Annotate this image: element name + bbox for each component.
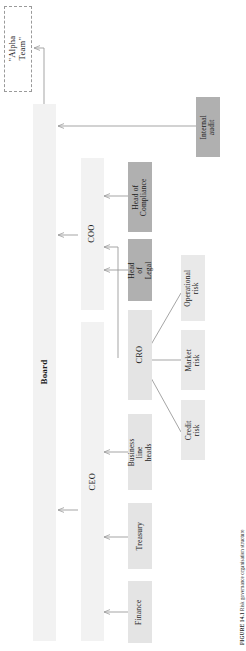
figure-caption-text: Risk governance organisation structure [239,529,245,610]
node-business-line-heads-label: Business line heads [128,438,153,466]
node-board-label: Board [39,360,49,385]
node-finance[interactable]: Finance [128,581,152,643]
node-board[interactable]: Board [33,104,56,641]
node-ceo-label: CEO [88,473,97,490]
node-coo-label: COO [88,225,97,243]
figure-caption-label: FIGURE 14.1 [239,612,245,645]
node-market-risk-label: Market risk [185,349,202,372]
edge-cro-coo [104,247,118,358]
node-head-of-compliance[interactable]: Head of Compliance [128,162,152,232]
node-cro-label: CRO [135,346,144,364]
node-internal-audit-label: Internal audit [200,115,217,140]
figure-caption: FIGURE 14.1 Risk governance organisation… [227,0,245,651]
node-ceo[interactable]: CEO [81,322,104,641]
node-cro[interactable]: CRO [128,310,152,400]
edge-board-alphateam [34,48,44,104]
node-alpha-team-label: "Alpha Team" [8,36,27,62]
node-treasury[interactable]: Treasury [128,503,152,569]
node-head-of-compliance-label: Head of Compliance [132,178,149,216]
node-credit-risk-label: Credit risk [185,420,202,440]
node-treasury-label: Treasury [136,522,145,550]
node-internal-audit[interactable]: Internal audit [196,97,220,157]
figure-canvas: "Alpha Team" Board COO CEO Internal audi… [0,0,246,651]
node-market-risk[interactable]: Market risk [181,330,205,390]
node-operational-risk-label: Operational risk [185,269,202,306]
node-head-of-legal-label: Head of Legal [128,258,153,282]
node-alpha-team[interactable]: "Alpha Team" [4,6,32,92]
node-head-of-legal[interactable]: Head of Legal [128,239,152,301]
node-finance-label: Finance [136,599,145,624]
node-coo[interactable]: COO [81,158,104,310]
figure-caption-line: FIGURE 14.1 Risk governance organisation… [239,529,245,645]
node-credit-risk[interactable]: Credit risk [181,400,205,460]
node-business-line-heads[interactable]: Business line heads [128,414,152,490]
node-operational-risk[interactable]: Operational risk [181,255,205,321]
